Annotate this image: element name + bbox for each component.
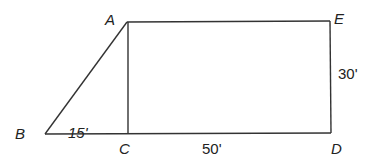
label-length-de: 30' <box>338 65 358 82</box>
segment-ed <box>330 21 331 133</box>
label-point-d: D <box>331 140 342 157</box>
label-point-e: E <box>334 10 345 27</box>
label-length-bc: 15' <box>68 124 89 141</box>
segment-ab <box>45 22 127 134</box>
label-point-a: A <box>104 11 115 28</box>
label-point-b: B <box>15 125 25 142</box>
label-length-cd: 50' <box>202 140 222 157</box>
label-point-c: C <box>119 140 130 157</box>
segment-ae <box>127 21 330 22</box>
geometry-diagram: A E 30' B 15' C 50' D <box>0 0 381 164</box>
segment-bd <box>45 133 331 134</box>
